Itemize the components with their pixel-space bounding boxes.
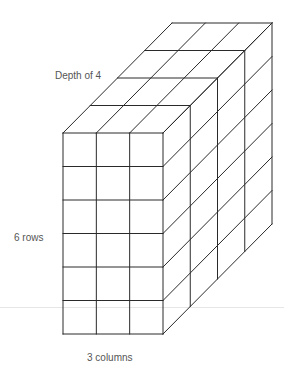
rows-label: 6 rows — [14, 232, 43, 243]
columns-label: 3 columns — [87, 352, 133, 363]
depth-label: Depth of 4 — [55, 70, 101, 81]
cube-prism-diagram — [0, 0, 284, 373]
